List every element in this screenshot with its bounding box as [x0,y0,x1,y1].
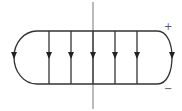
positive-label: + [164,22,172,32]
arrow-icons [11,52,175,59]
field-diagram [0,0,182,111]
negative-label: − [164,84,172,94]
